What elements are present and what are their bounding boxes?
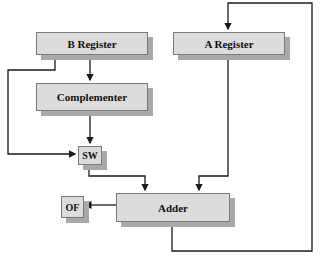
switch-label: SW: [82, 150, 98, 161]
adder-label: Adder: [158, 202, 188, 214]
a-register-label: A Register: [204, 38, 253, 50]
overflow-label: OF: [66, 202, 80, 213]
b-register-block: B Register: [36, 32, 148, 55]
a-register-block: A Register: [173, 32, 285, 55]
complementer-label: Complementer: [57, 91, 127, 103]
b-register-label: B Register: [67, 38, 116, 50]
switch-block: SW: [78, 146, 102, 165]
complementer-block: Complementer: [36, 83, 148, 111]
adder-block: Adder: [116, 193, 230, 222]
overflow-block: OF: [61, 196, 84, 218]
